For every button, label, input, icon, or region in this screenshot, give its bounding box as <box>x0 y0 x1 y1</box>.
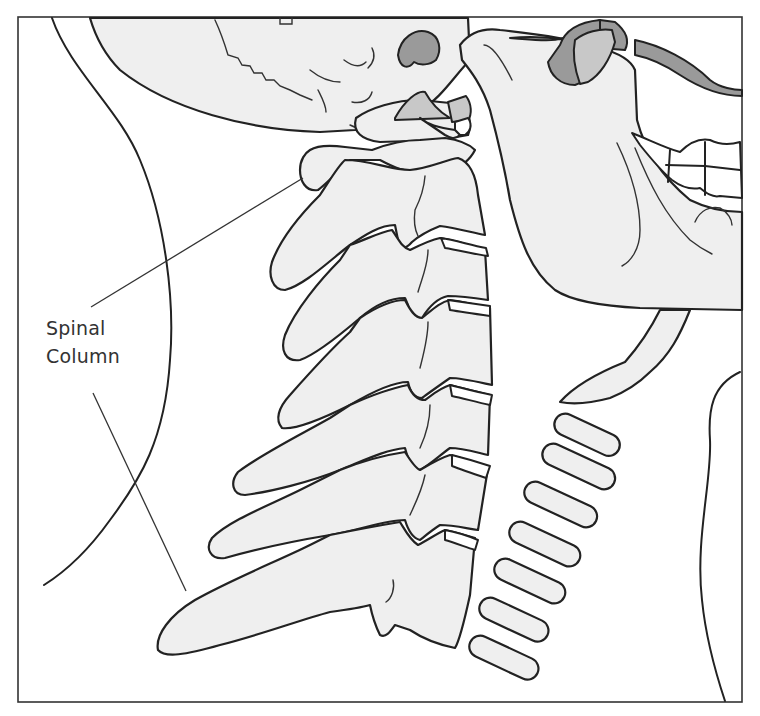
label-line-2: Column <box>46 342 120 370</box>
label-line-1: Spinal <box>46 314 120 342</box>
spinal-column-label: Spinal Column <box>46 314 120 370</box>
